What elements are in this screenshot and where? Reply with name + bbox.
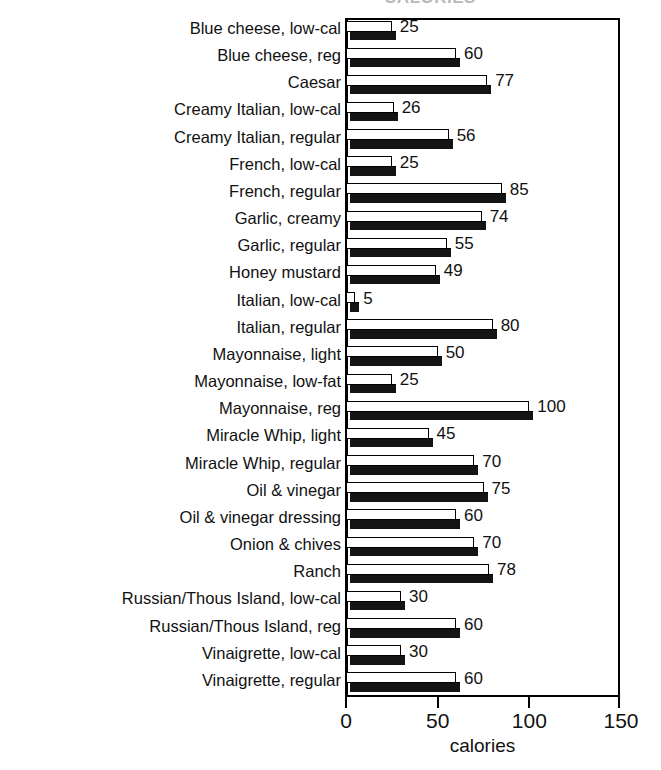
bar-row: Honey mustard49 bbox=[0, 262, 661, 288]
bar-row: Russian/Thous Island, low-cal30 bbox=[0, 588, 661, 614]
bar-value-label: 55 bbox=[455, 235, 474, 253]
bar-row: Oil & vinegar75 bbox=[0, 480, 661, 506]
bar-category-label: Vinaigrette, regular bbox=[11, 671, 341, 690]
bar-row: Ranch78 bbox=[0, 561, 661, 587]
bar-row: Garlic, creamy74 bbox=[0, 208, 661, 234]
bar-value-label: 30 bbox=[409, 588, 428, 606]
bar-row: Blue cheese, low-cal25 bbox=[0, 18, 661, 44]
bar bbox=[346, 183, 502, 194]
x-axis-tick bbox=[618, 697, 620, 708]
bar-row: Blue cheese, reg60 bbox=[0, 45, 661, 71]
bar bbox=[346, 401, 529, 412]
bar-category-label: Caesar bbox=[11, 73, 341, 92]
bar-value-label: 100 bbox=[537, 398, 565, 416]
bar-row: French, low-cal25 bbox=[0, 154, 661, 180]
bar bbox=[346, 48, 456, 59]
bar-category-label: Russian/Thous Island, low-cal bbox=[11, 589, 341, 608]
bar-category-label: Blue cheese, low-cal bbox=[11, 19, 341, 38]
bar bbox=[346, 102, 394, 113]
chart-root: CALORIES Blue cheese, low-cal25Blue chee… bbox=[0, 0, 661, 770]
bar-shadow bbox=[350, 221, 486, 231]
bar-value-label: 26 bbox=[402, 99, 421, 117]
bar bbox=[346, 482, 484, 493]
bar-shadow bbox=[350, 574, 493, 584]
bar-value-label: 70 bbox=[482, 453, 501, 471]
bar bbox=[346, 509, 456, 520]
bar-category-label: Italian, regular bbox=[11, 318, 341, 337]
bar-shadow bbox=[350, 329, 497, 339]
bar-shadow bbox=[350, 601, 405, 611]
bar-value-label: 85 bbox=[510, 181, 529, 199]
bar-category-label: Ranch bbox=[11, 562, 341, 581]
bar-category-label: Oil & vinegar dressing bbox=[11, 508, 341, 527]
bar bbox=[346, 346, 438, 357]
bar-shadow bbox=[350, 682, 460, 692]
bar-shadow bbox=[350, 275, 440, 285]
bar-shadow bbox=[350, 628, 460, 638]
bar-row: Garlic, regular55 bbox=[0, 235, 661, 261]
bar-shadow bbox=[350, 384, 396, 394]
bar-category-label: Blue cheese, reg bbox=[11, 46, 341, 65]
bar-category-label: French, regular bbox=[11, 182, 341, 201]
bar-row: Caesar77 bbox=[0, 72, 661, 98]
bar-row: Miracle Whip, regular70 bbox=[0, 453, 661, 479]
bar-value-label: 77 bbox=[495, 72, 514, 90]
bar-shadow bbox=[350, 302, 359, 312]
bar-shadow bbox=[350, 193, 506, 203]
bar-category-label: Honey mustard bbox=[11, 263, 341, 282]
bar-shadow bbox=[350, 31, 396, 41]
bar-shadow bbox=[350, 655, 405, 665]
bar-value-label: 50 bbox=[446, 344, 465, 362]
chart-title: CALORIES bbox=[330, 0, 530, 4]
bar bbox=[346, 211, 482, 222]
bar-shadow bbox=[350, 58, 460, 68]
bar-shadow bbox=[350, 112, 398, 122]
bar-category-label: Vinaigrette, low-cal bbox=[11, 644, 341, 663]
bar-value-label: 70 bbox=[482, 534, 501, 552]
bar-value-label: 25 bbox=[400, 18, 419, 36]
bar-category-label: Russian/Thous Island, reg bbox=[11, 617, 341, 636]
bar-value-label: 5 bbox=[363, 290, 372, 308]
x-axis-tick-label: 0 bbox=[311, 709, 381, 733]
bar-row: Russian/Thous Island, reg60 bbox=[0, 616, 661, 642]
bar-row: Mayonnaise, light50 bbox=[0, 344, 661, 370]
bar-shadow bbox=[350, 248, 451, 258]
x-axis-tick-label: 100 bbox=[494, 709, 564, 733]
bar-row: Vinaigrette, low-cal30 bbox=[0, 643, 661, 669]
bar-category-label: Mayonnaise, reg bbox=[11, 399, 341, 418]
bar-category-label: Miracle Whip, light bbox=[11, 426, 341, 445]
bar bbox=[346, 319, 493, 330]
bar bbox=[346, 455, 474, 466]
x-axis-tick bbox=[345, 697, 347, 708]
bar-rows-container: Blue cheese, low-cal25Blue cheese, reg60… bbox=[0, 18, 661, 697]
bar-shadow bbox=[350, 465, 478, 475]
bar-shadow bbox=[350, 547, 478, 557]
bar-row: Mayonnaise, reg100 bbox=[0, 398, 661, 424]
bar-row: Creamy Italian, low-cal26 bbox=[0, 99, 661, 125]
bar-category-label: Creamy Italian, regular bbox=[11, 128, 341, 147]
bar-row: French, regular85 bbox=[0, 181, 661, 207]
bar-shadow bbox=[350, 166, 396, 176]
bar-shadow bbox=[350, 85, 491, 95]
bar-value-label: 25 bbox=[400, 371, 419, 389]
bar-row: Oil & vinegar dressing60 bbox=[0, 507, 661, 533]
bar bbox=[346, 129, 449, 140]
bar-row: Miracle Whip, light45 bbox=[0, 425, 661, 451]
x-axis-tick-label: 150 bbox=[586, 709, 656, 733]
bar-category-label: Oil & vinegar bbox=[11, 481, 341, 500]
bar-row: Onion & chives70 bbox=[0, 534, 661, 560]
bar bbox=[346, 537, 474, 548]
bar-category-label: Garlic, regular bbox=[11, 236, 341, 255]
bar-value-label: 60 bbox=[464, 670, 483, 688]
bar bbox=[346, 374, 392, 385]
bar bbox=[346, 292, 355, 303]
bar-category-label: Onion & chives bbox=[11, 535, 341, 554]
bar-value-label: 60 bbox=[464, 45, 483, 63]
bar-value-label: 60 bbox=[464, 616, 483, 634]
bar-category-label: Italian, low-cal bbox=[11, 291, 341, 310]
bar bbox=[346, 591, 401, 602]
bar-shadow bbox=[350, 492, 488, 502]
bar bbox=[346, 428, 429, 439]
x-axis: calories 050100150 bbox=[345, 697, 620, 767]
x-axis-tick-label: 50 bbox=[403, 709, 473, 733]
